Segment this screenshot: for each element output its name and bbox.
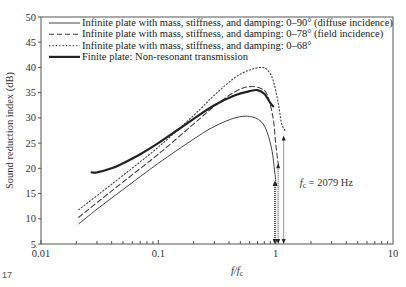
arrow-head-down-icon — [276, 239, 280, 244]
legend-label-1: Infinite plate with mass, stiffness, and… — [82, 28, 384, 40]
y-tick-label: 40 — [26, 62, 37, 73]
sound-reduction-chart: 51015202530354045500.010.1110f/fcSound r… — [0, 0, 406, 287]
y-tick-label: 35 — [26, 87, 37, 98]
series-line-2 — [79, 67, 285, 209]
y-tick-label: 15 — [26, 188, 37, 199]
y-tick-label: 25 — [26, 138, 37, 149]
x-tick-label: 1 — [273, 248, 278, 259]
legend-label-0: Infinite plate with mass, stiffness, and… — [82, 17, 393, 29]
legend-label-2: Infinite plate with mass, stiffness, and… — [82, 40, 311, 51]
y-tick-label: 10 — [26, 213, 37, 224]
legend-label-3: Finite plate: Non-resonant transmission — [82, 51, 249, 62]
arrow-head-up-icon — [282, 136, 286, 141]
figure-number: 17 — [2, 270, 12, 280]
x-tick-label: 0.1 — [152, 248, 165, 259]
y-tick-label: 50 — [26, 12, 37, 23]
series-line-3 — [92, 90, 274, 173]
critical-frequency-label: fc = 2079 Hz — [300, 177, 354, 190]
legend: Infinite plate with mass, stiffness, and… — [49, 17, 393, 62]
plot-lines — [79, 67, 285, 223]
y-tick-label: 20 — [26, 163, 37, 174]
x-tick-label: 0.01 — [32, 248, 50, 259]
series-line-1 — [79, 86, 280, 217]
y-tick-label: 45 — [26, 37, 37, 48]
y-tick-label: 30 — [26, 112, 37, 123]
annotations: fc = 2079 Hz — [300, 177, 354, 190]
critical-frequency-arrows — [273, 136, 286, 244]
arrow-head-down-icon — [282, 239, 286, 244]
x-axis-title: f/fc — [231, 265, 244, 278]
arrow-head-up-icon — [276, 163, 280, 168]
x-tick-label: 10 — [388, 248, 399, 259]
y-axis-title: Sound reduction index (dB) — [4, 72, 16, 189]
